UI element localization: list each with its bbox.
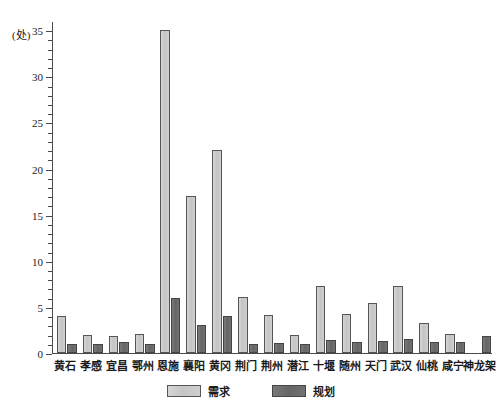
x-axis-label: 天门: [365, 357, 387, 373]
y-tick-minor: [48, 317, 52, 318]
plot-area: 05101520253035: [52, 22, 492, 354]
bar-demand: [238, 297, 248, 353]
x-axis-label: 潜江: [287, 357, 309, 373]
x-axis-label: 黄石: [54, 357, 76, 373]
x-axis-label: 神龙架: [463, 357, 496, 373]
bar-plan: [119, 342, 129, 353]
bar-demand: [109, 336, 119, 353]
legend-label: 需求: [208, 383, 230, 399]
bar-plan: [326, 340, 336, 353]
y-tick-minor: [48, 59, 52, 60]
y-tick-label: 25: [32, 117, 43, 129]
bar-group: [364, 22, 390, 353]
y-tick-major: [46, 123, 52, 124]
y-tick-major: [46, 216, 52, 217]
bar-group: [208, 22, 234, 353]
bar-demand: [57, 316, 67, 353]
y-tick-minor: [48, 40, 52, 41]
bar-group: [105, 22, 131, 353]
y-tick-major: [46, 308, 52, 309]
y-tick-minor: [48, 50, 52, 51]
bar-group: [234, 22, 260, 353]
y-tick-label: 0: [38, 348, 44, 360]
bar-demand: [316, 286, 326, 353]
y-tick-minor: [48, 289, 52, 290]
y-tick-major: [46, 262, 52, 263]
y-tick-minor: [48, 151, 52, 152]
x-axis-label: 襄阳: [183, 357, 205, 373]
bar-plan: [456, 342, 466, 353]
x-axis-label: 十堰: [313, 357, 335, 373]
x-axis-label: 宜昌: [106, 357, 128, 373]
bar-plan: [145, 344, 155, 353]
x-axis-label: 恩施: [157, 357, 179, 373]
legend-item[interactable]: 规划: [272, 383, 335, 399]
y-tick-minor: [48, 243, 52, 244]
x-axis-label: 随州: [339, 357, 361, 373]
y-tick-major: [46, 354, 52, 355]
y-tick-minor: [48, 142, 52, 143]
x-axis-label: 仙桃: [416, 357, 438, 373]
x-axis-label: 荆州: [261, 357, 283, 373]
y-tick-label: 10: [32, 256, 43, 268]
y-tick-minor: [48, 271, 52, 272]
x-axis-label: 咸宁: [442, 357, 464, 373]
x-axis-label: 黄冈: [209, 357, 231, 373]
y-tick-minor: [48, 299, 52, 300]
bar-plan: [274, 343, 284, 353]
bar-demand: [290, 335, 300, 353]
bar-plan: [197, 325, 207, 353]
y-tick-label: 5: [38, 302, 44, 314]
x-axis-line: [52, 353, 492, 354]
y-tick-label: 35: [32, 25, 43, 37]
legend-item[interactable]: 需求: [167, 383, 230, 399]
bar-demand: [160, 30, 170, 353]
bar-demand: [342, 314, 352, 353]
y-tick-minor: [48, 234, 52, 235]
bar-plan: [93, 344, 103, 353]
y-tick-major: [46, 77, 52, 78]
bar-plan: [300, 344, 310, 353]
y-tick-minor: [48, 253, 52, 254]
bar-demand: [186, 196, 196, 353]
bar-plan: [67, 344, 77, 353]
bar-demand: [445, 334, 455, 353]
bar-group: [467, 22, 493, 353]
y-tick-label: 15: [32, 210, 43, 222]
bar-demand: [135, 334, 145, 353]
x-axis-label: 武汉: [390, 357, 412, 373]
x-axis-label: 鄂州: [132, 357, 154, 373]
bar-plan: [482, 336, 492, 353]
bar-demand: [368, 303, 378, 353]
legend-swatch-demand: [167, 385, 201, 397]
legend-label: 规划: [313, 383, 335, 399]
x-axis-label: 孝感: [80, 357, 102, 373]
y-tick-minor: [48, 87, 52, 88]
y-tick-minor: [48, 68, 52, 69]
legend-swatch-plan: [272, 385, 306, 397]
bar-demand: [393, 286, 403, 353]
bar-demand: [212, 150, 222, 353]
bar-group: [182, 22, 208, 353]
x-axis-labels: 黄石孝感宜昌鄂州恩施襄阳黄冈荆门荆州潜江十堰随州天门武汉仙桃咸宁神龙架: [52, 357, 492, 377]
y-tick-minor: [48, 197, 52, 198]
y-tick-minor: [48, 206, 52, 207]
bar-plan: [223, 316, 233, 353]
y-axis-unit-label: (处): [12, 26, 30, 42]
y-tick-minor: [48, 96, 52, 97]
bar-group: [441, 22, 467, 353]
y-tick-minor: [48, 336, 52, 337]
bar-plan: [249, 344, 259, 353]
y-tick-minor: [48, 345, 52, 346]
bar-group: [389, 22, 415, 353]
bar-group: [415, 22, 441, 353]
bar-plan: [352, 342, 362, 353]
bar-group: [157, 22, 183, 353]
y-tick-major: [46, 170, 52, 171]
bar-plan: [404, 339, 414, 353]
y-tick-label: 20: [32, 164, 43, 176]
y-tick-minor: [48, 160, 52, 161]
bar-plan: [171, 298, 181, 353]
bar-demand: [83, 335, 93, 353]
bar-group: [338, 22, 364, 353]
